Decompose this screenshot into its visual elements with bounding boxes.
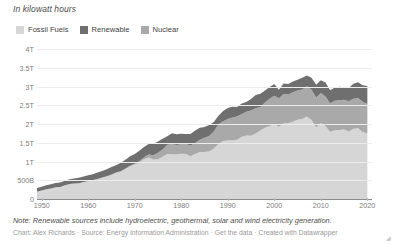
x-axis-tick-label: 2010: [313, 201, 329, 210]
x-axis-tick: [42, 198, 43, 201]
gridline: [37, 180, 372, 181]
gridline: [37, 87, 372, 88]
legend-item-nuclear[interactable]: Nuclear: [141, 25, 179, 34]
credit-source: Source: Energy Information Administratio…: [81, 229, 208, 236]
chart-legend: Fossil Fuels Renewable Nuclear: [16, 25, 190, 34]
x-axis-tick: [274, 198, 275, 201]
legend-label-fossil-fuels: Fossil Fuels: [28, 25, 69, 34]
x-axis-tick-label: 1990: [220, 201, 236, 210]
y-axis-tick-label: 2T: [26, 120, 34, 129]
y-axis-tick-label: 4T: [26, 45, 34, 54]
y-axis-tick-label: 3T: [26, 82, 34, 91]
x-axis-tick-label: 2000: [266, 201, 282, 210]
x-axis-tick-label: 2020: [359, 201, 375, 210]
x-axis-tick-label: 1970: [127, 201, 143, 210]
plot-area: [37, 40, 372, 199]
gridline: [37, 143, 372, 144]
x-axis-labels: 19501960197019801990200020102020: [37, 201, 372, 213]
x-axis-tick-label: 1950: [34, 201, 50, 210]
gridline: [37, 68, 372, 69]
y-axis-tick-label: 2.5T: [20, 101, 34, 110]
legend-item-fossil-fuels[interactable]: Fossil Fuels: [16, 25, 69, 34]
stacked-area-series: [37, 40, 372, 199]
resize-corner-icon: ◢: [386, 236, 390, 240]
x-axis-tick: [228, 198, 229, 201]
legend-swatch-nuclear: [141, 26, 149, 34]
y-axis-tick-label: 1T: [26, 157, 34, 166]
legend-swatch-renewable: [80, 26, 88, 34]
chart-subtitle: In kilowatt hours: [13, 4, 76, 14]
legend-swatch-fossil-fuels: [16, 26, 24, 34]
x-axis-tick: [135, 198, 136, 201]
y-axis-tick-label: 500B: [17, 176, 34, 185]
gridline: [37, 49, 372, 50]
x-axis-tick: [321, 198, 322, 201]
gridline: [37, 162, 372, 163]
legend-item-renewable[interactable]: Renewable: [80, 25, 130, 34]
get-the-data-link[interactable]: Get the data: [215, 229, 252, 236]
x-axis-tick: [367, 198, 368, 201]
x-axis-tick: [88, 198, 89, 201]
created-with-datawrapper-link[interactable]: Created with Datawrapper: [259, 229, 338, 236]
gridline: [37, 124, 372, 125]
x-axis-tick-label: 1960: [80, 201, 96, 210]
chart-credit: Chart: Alex Richards·Source: Energy Info…: [13, 229, 337, 236]
gridline: [37, 105, 372, 106]
legend-label-nuclear: Nuclear: [153, 25, 179, 34]
legend-label-renewable: Renewable: [92, 25, 130, 34]
y-axis-labels: 0500B1T1.5T2T2.5T3T3.5T4T: [0, 40, 34, 199]
y-axis-tick-label: 1.5T: [20, 138, 34, 147]
x-axis-tick-label: 1980: [173, 201, 189, 210]
credit-chart-by: Chart: Alex Richards: [13, 229, 75, 236]
x-axis-tick: [181, 198, 182, 201]
chart-container: In kilowatt hours Fossil Fuels Renewable…: [0, 0, 395, 244]
y-axis-tick-label: 3.5T: [20, 64, 34, 73]
chart-note: Note: Renewable sources include hydroele…: [13, 216, 332, 225]
